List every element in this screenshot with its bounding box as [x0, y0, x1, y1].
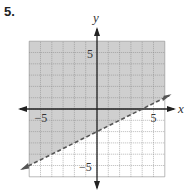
x-tick-label: 5 — [151, 111, 157, 125]
line-arrow-left — [20, 163, 29, 170]
y-axis-arrow-down — [94, 181, 100, 190]
x-axis-arrow-left — [18, 106, 27, 112]
inequality-graph: xy−555−5 — [0, 0, 193, 194]
x-axis-arrow-right — [167, 106, 176, 112]
x-axis-label: x — [177, 101, 184, 116]
y-axis-label: y — [91, 10, 99, 25]
y-axis-arrow-up — [94, 27, 100, 36]
y-tick-label: 5 — [87, 47, 93, 61]
x-tick-label: −5 — [35, 111, 48, 125]
y-tick-label: −5 — [79, 160, 92, 174]
